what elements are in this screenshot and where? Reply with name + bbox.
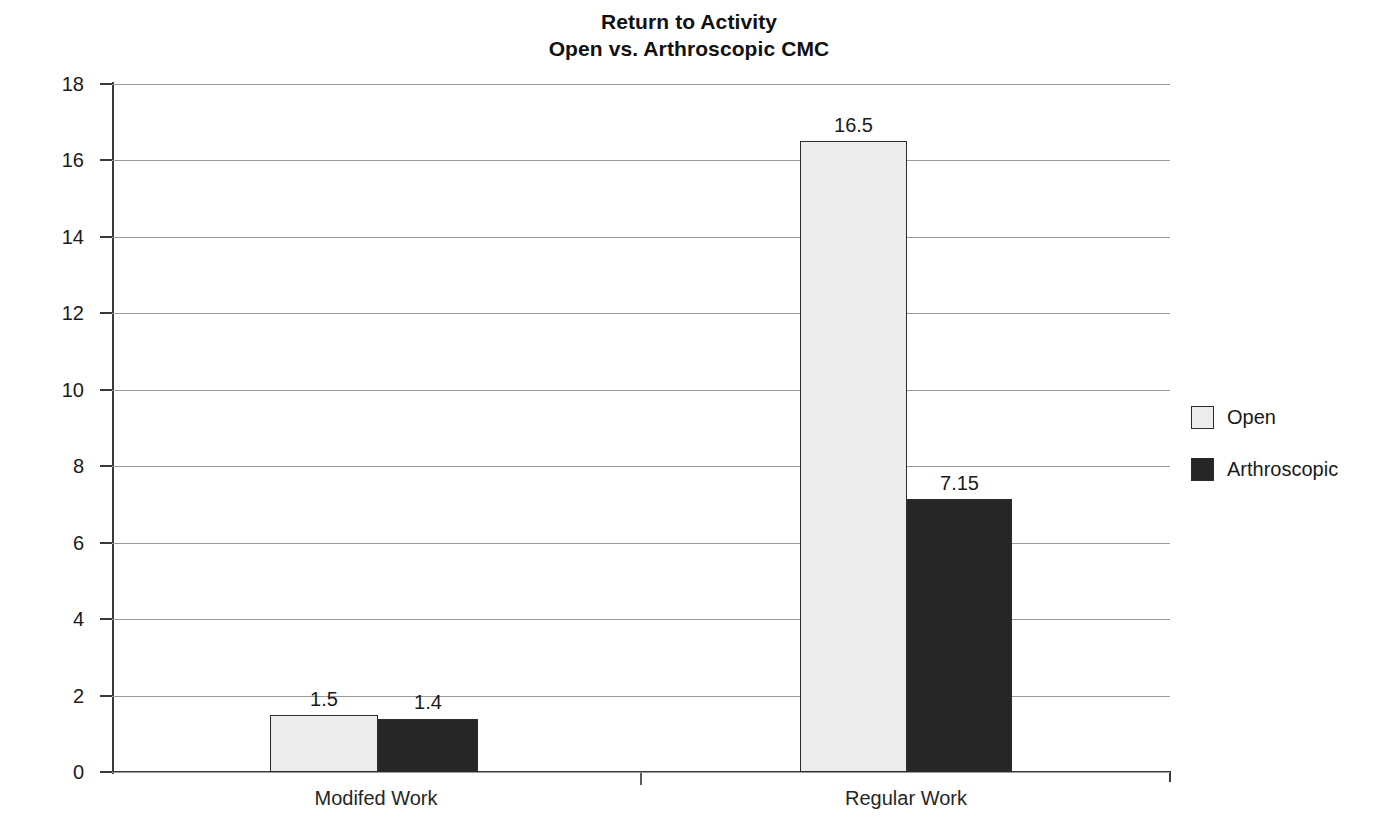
- y-axis-tick-label: 18: [24, 74, 84, 94]
- bar-value-label: 16.5: [800, 114, 907, 136]
- chart-title-line-1: Return to Activity: [601, 10, 777, 33]
- y-axis-tick-label: 0: [24, 762, 84, 782]
- y-axis-tick: [100, 542, 112, 544]
- gridline: [112, 313, 1170, 314]
- legend-label: Arthroscopic: [1227, 458, 1338, 481]
- y-axis-tick-label: 14: [24, 227, 84, 247]
- y-axis-tick-label: 4: [24, 609, 84, 629]
- bar-arthroscopic-0: [378, 719, 478, 773]
- legend-item-arthroscopic[interactable]: Arthroscopic: [1191, 457, 1338, 481]
- bar-value-label: 1.4: [378, 691, 478, 713]
- legend: OpenArthroscopic: [1191, 405, 1338, 509]
- gridline: [112, 390, 1170, 391]
- y-axis-tick-label: 8: [24, 456, 84, 476]
- x-axis-category-label: Regular Work: [756, 786, 1056, 810]
- legend-item-open[interactable]: Open: [1191, 405, 1338, 429]
- chart-title: Return to Activity Open vs. Arthroscopic…: [0, 8, 1378, 62]
- gridline: [112, 84, 1170, 85]
- y-axis-tick-label: 10: [24, 380, 84, 400]
- y-axis-tick: [100, 312, 112, 314]
- bar-open-1: [800, 141, 907, 772]
- gridline: [112, 466, 1170, 467]
- gridline: [112, 772, 1170, 773]
- y-axis-tick: [100, 695, 112, 697]
- plot-area: 1.51.416.57.15: [112, 84, 1170, 772]
- y-axis-tick-label: 16: [24, 150, 84, 170]
- legend-label: Open: [1227, 406, 1276, 429]
- y-axis-tick-label: 2: [24, 686, 84, 706]
- y-axis-tick: [100, 159, 112, 161]
- bar-open-0: [270, 715, 378, 772]
- y-axis-tick-label: 6: [24, 533, 84, 553]
- y-axis-tick: [100, 465, 112, 467]
- legend-swatch-arthroscopic: [1191, 458, 1214, 481]
- y-axis-tick: [100, 618, 112, 620]
- gridline: [112, 160, 1170, 161]
- y-axis-tick: [100, 83, 112, 85]
- y-axis-tick-label: 12: [24, 303, 84, 323]
- legend-swatch-open: [1191, 406, 1214, 429]
- y-axis-tick: [100, 389, 112, 391]
- bar-value-label: 7.15: [907, 472, 1012, 494]
- bar-chart: Return to Activity Open vs. Arthroscopic…: [0, 0, 1378, 837]
- gridline: [112, 237, 1170, 238]
- y-axis-tick: [100, 771, 112, 773]
- x-axis-category-separator-tick: [640, 772, 642, 785]
- x-axis-category-label: Modifed Work: [226, 786, 526, 810]
- y-axis-tick: [100, 236, 112, 238]
- bar-arthroscopic-1: [907, 499, 1012, 772]
- chart-title-line-2: Open vs. Arthroscopic CMC: [0, 35, 1378, 62]
- bar-value-label: 1.5: [270, 688, 378, 710]
